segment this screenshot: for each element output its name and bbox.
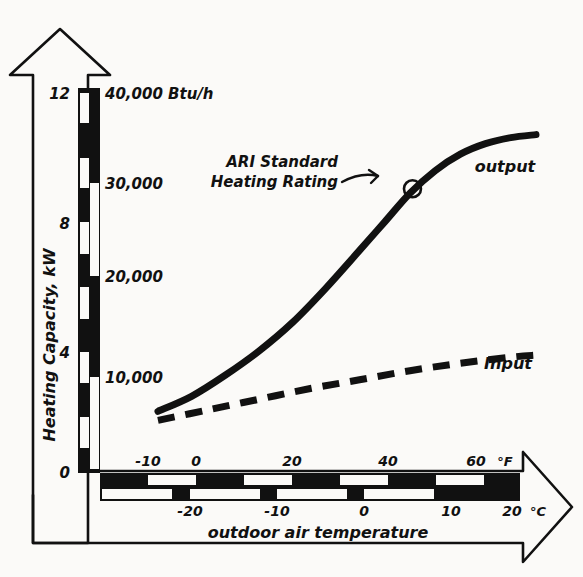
y-tick-kw-8: 8 [60, 215, 70, 233]
y-tick-kw-12: 12 [49, 85, 70, 103]
x-axis-fahrenheit-unit: °F [497, 454, 513, 469]
y-tick-btu-20000: 20,000 [105, 268, 163, 286]
x-tick-f-20: 20 [282, 453, 302, 469]
x-tick-f-0: 0 [191, 453, 201, 469]
y-tick-kw-0: 0 [60, 464, 70, 482]
series-label-input: Input [484, 354, 533, 373]
y-tick-btu-10000: 10,000 [105, 369, 163, 387]
x-tick-f-40: 40 [377, 453, 398, 469]
x-tick-f--10: -10 [135, 453, 161, 469]
x-tick-c--10: -10 [264, 503, 290, 519]
y-tick-btu-40000: 40,000 Btu/h [104, 85, 214, 103]
y-axis-scale-bar [78, 88, 100, 473]
y-tick-kw-4: 4 [59, 344, 70, 362]
x-tick-c--20: -20 [177, 503, 203, 519]
hand-drawn-heat-pump-capacity-chart: 12 8 4 0 40,000 Btu/h 30,000 20,000 10,0… [0, 0, 583, 577]
x-axis-scale-bar [100, 473, 520, 501]
ari-annotation-line1: ARI Standard [225, 153, 338, 171]
figure-canvas: 12 8 4 0 40,000 Btu/h 30,000 20,000 10,0… [0, 0, 583, 577]
x-axis-title: outdoor air temperature [208, 523, 429, 542]
ari-annotation-line2: Heating Rating [211, 173, 338, 191]
x-tick-f-60: 60 [466, 453, 486, 469]
x-tick-c-20: 20 [502, 503, 522, 519]
x-tick-c-0: 0 [359, 503, 369, 519]
y-tick-btu-30000: 30,000 [105, 175, 163, 193]
x-tick-c-10: 10 [441, 503, 461, 519]
x-axis-celsius-unit: °C [530, 504, 547, 519]
y-axis-title: Heating Capacity, kW [40, 247, 59, 441]
series-label-output: output [475, 157, 537, 176]
